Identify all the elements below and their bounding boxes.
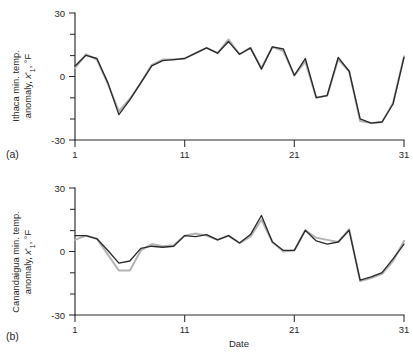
panel-b-yticks bbox=[69, 188, 75, 315]
panel-b-ylabel: Canandaigua min. temp. anomaly, x'1, °F bbox=[11, 211, 36, 312]
panel-a-xtick-11: 11 bbox=[180, 149, 190, 160]
panel-b-ylabel-pre: anomaly, bbox=[23, 255, 33, 295]
figure-container: Ithaca min. temp. anomaly, x'1, °F bbox=[0, 0, 413, 352]
panel-a-ytick-30: 30 bbox=[54, 8, 65, 19]
panel-b-ytick-neg30: -30 bbox=[51, 310, 65, 321]
panel-a-xticks bbox=[75, 140, 404, 147]
panel-a-series-observed bbox=[75, 42, 404, 123]
panel-a-ylabel-post: , °F bbox=[23, 53, 33, 68]
panel-a-ytick-neg30: -30 bbox=[51, 135, 65, 146]
panel-b-xtick-1: 1 bbox=[72, 324, 77, 335]
panel-b-ytick-0: 0 bbox=[60, 246, 65, 257]
panel-b-ylabel-line1: Canandaigua min. temp. bbox=[11, 211, 21, 312]
panel-b-xaxis-title: Date bbox=[229, 338, 249, 349]
panel-a-label: (a) bbox=[6, 148, 19, 160]
panel-a: Ithaca min. temp. anomaly, x'1, °F bbox=[6, 8, 409, 160]
panel-b-xtick-21: 21 bbox=[289, 324, 300, 335]
panel-a-ylabel-line2: anomaly, x'1, °F bbox=[23, 53, 36, 118]
panel-b-xtick-11: 11 bbox=[180, 324, 190, 335]
panel-a-ylabel: Ithaca min. temp. anomaly, x'1, °F bbox=[11, 50, 36, 121]
panel-b-label: (b) bbox=[6, 330, 19, 342]
panel-a-xtick-1: 1 bbox=[72, 149, 77, 160]
panel-b-ylabel-line2: anomaly, x'1, °F bbox=[23, 229, 36, 294]
panel-a-yticks bbox=[69, 13, 75, 140]
panel-a-series-simulated bbox=[75, 39, 404, 123]
panel-b-xticks bbox=[75, 315, 404, 322]
panel-b-ylabel-post: , °F bbox=[23, 229, 33, 244]
panel-b-xtick-31: 31 bbox=[399, 324, 410, 335]
panel-a-xtick-21: 21 bbox=[289, 149, 300, 160]
panel-b-ytick-30: 30 bbox=[54, 183, 65, 194]
panel-a-ytick-0: 0 bbox=[60, 71, 65, 82]
panel-b: Canandaigua min. temp. anomaly, x'1, °F … bbox=[6, 183, 409, 349]
chart-svg: Ithaca min. temp. anomaly, x'1, °F bbox=[0, 0, 413, 352]
panel-a-ylabel-line1: Ithaca min. temp. bbox=[11, 50, 21, 121]
panel-a-xtick-31: 31 bbox=[399, 149, 410, 160]
panel-a-ylabel-pre: anomaly, bbox=[23, 79, 33, 119]
panel-b-series-simulated bbox=[75, 220, 404, 281]
